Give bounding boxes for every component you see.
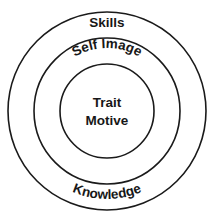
core-label-trait: Trait [93, 95, 122, 110]
diagram-canvas: Skills Self Image Knowledge Trait Motive [0, 0, 216, 223]
ring-label-skills: Skills [89, 15, 124, 30]
concentric-circles-diagram: Skills Self Image Knowledge Trait Motive [0, 0, 216, 223]
core-label-motive: Motive [86, 113, 129, 128]
inner-ring-trait-motive [60, 64, 154, 158]
